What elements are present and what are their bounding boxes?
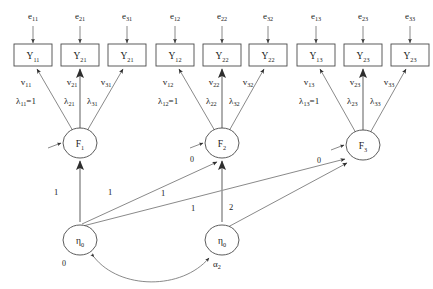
loading-label-lambda11: λ11=1 (16, 96, 36, 107)
loading-label-lambda22: λ22 (206, 96, 217, 107)
loading-label-lambda23: λ23 (347, 96, 358, 107)
loading-label-lambda31: λ31 (87, 96, 98, 107)
intercept-label-v13: v13 (304, 77, 315, 88)
structural-path-eta1-f3 (228, 163, 347, 227)
growth-mean-label-eta0: 0 (62, 259, 66, 268)
intercept-label-v33: v33 (384, 77, 395, 88)
disturbance-arrow-f1 (48, 143, 61, 148)
coef-label-eta1-f3: 2 (229, 202, 233, 212)
structural-path-eta0-f2 (82, 162, 217, 224)
factor-mean-label-f2: 0 (190, 155, 194, 164)
residual-label-e23: e23 (358, 11, 368, 22)
intercept-labels: v11 v21 v31 v12 v22 v32 v13 v23 (21, 77, 395, 88)
structural-path-eta0-f3 (83, 159, 345, 226)
intercept-label-v11: v11 (21, 77, 31, 88)
factor-mean-label-f3: 0 (317, 156, 321, 165)
intercept-label-v22: v22 (209, 77, 220, 88)
covariance-curve (94, 257, 209, 282)
loading-label-lambda21: λ21 (64, 96, 75, 107)
residual-label-e31: e31 (122, 11, 132, 22)
loading-label-lambda12: λ12=1 (158, 96, 178, 107)
coef-label-eta1-f2: 1 (191, 203, 195, 213)
loading-arrows-group3 (320, 69, 406, 133)
residual-label-e22: e22 (217, 11, 227, 22)
residual-labels: e11 e21 e31 e12 e22 e32 e13 e23 (28, 11, 415, 22)
loading-arrows-group1 (37, 69, 123, 131)
coef-label-eta0-f3: 1 (161, 188, 165, 198)
intercept-label-v31: v31 (101, 77, 112, 88)
factor-mean-labels: 0 0 (190, 155, 321, 165)
growth-mean-label-eta1: α2 (213, 259, 221, 270)
disturbance-arrow-f2 (190, 143, 203, 148)
loading-arrows-group2 (179, 69, 264, 131)
loading-label-lambda13: λ13=1 (299, 96, 319, 107)
intercept-label-v23: v23 (350, 77, 361, 88)
intercept-label-v12: v12 (163, 77, 174, 88)
structural-paths-eta0 (80, 159, 345, 226)
intercept-label-v32: v32 (243, 77, 254, 88)
intercept-label-v21: v21 (67, 77, 78, 88)
residual-arrows (33, 26, 410, 43)
residual-label-e32: e32 (263, 11, 273, 22)
residual-label-e21: e21 (75, 11, 85, 22)
diagram-canvas: e11 e21 e31 e12 e22 e32 e13 e23 (0, 0, 433, 289)
sem-path-diagram: e11 e21 e31 e12 e22 e32 e13 e23 (0, 0, 433, 289)
coef-label-eta0-f1: 1 (54, 187, 58, 197)
disturbance-arrow-f3 (331, 145, 344, 150)
loading-label-lambda33: λ33 (370, 96, 381, 107)
residual-label-e11: e11 (28, 11, 38, 22)
residual-label-e12: e12 (170, 11, 180, 22)
loading-label-lambda32: λ32 (229, 96, 240, 107)
residual-label-e33: e33 (405, 11, 415, 22)
residual-label-e13: e13 (311, 11, 321, 22)
growth-factor-nodes: η0 η0 (63, 225, 239, 255)
coef-label-eta0-f2: 1 (108, 187, 112, 197)
structural-paths-eta1 (222, 161, 347, 227)
covariance-double-arrow (94, 257, 209, 282)
factor-nodes: F1 F2 F3 (63, 128, 380, 160)
